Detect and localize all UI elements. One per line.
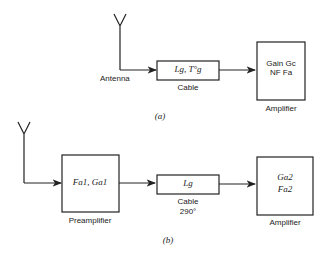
amplifier-b-gain: Ga2 [277,172,293,182]
amplifier-b-label: Amplifier [269,218,300,227]
antenna-icon-b [18,122,30,183]
preamplifier-label: Preamplifier [69,216,112,225]
amplifier-a-gain: Gain Gc [266,59,295,68]
preamplifier-params: Fa1, Ga1 [73,177,108,187]
caption-a: (a) [155,111,166,121]
amplifier-a-label: Amplifier [265,104,296,113]
antenna-label-a: Antenna [100,74,130,83]
cable-b-temp: 290° [180,207,197,216]
amplifier-a-nf: NF Fa [270,68,292,77]
diagram-lines [0,0,330,254]
cable-a-params: Lg, T°g [174,64,201,74]
caption-b: (b) [163,235,174,245]
cable-b-params: Lg [183,178,193,188]
amplifier-b-nf: Fa2 [278,184,293,194]
antenna-icon-a [114,14,126,70]
cable-b-label: Cable [178,197,199,206]
cable-a-label: Cable [178,83,199,92]
